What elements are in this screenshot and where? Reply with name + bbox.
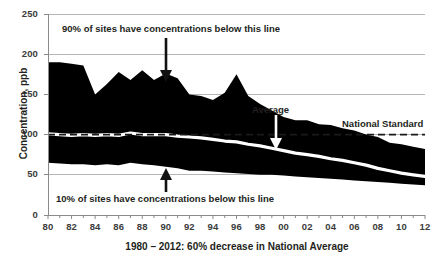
x-tick-label-86: 86	[107, 221, 131, 232]
x-tick-label-10: 10	[389, 221, 413, 232]
x-tick-label-94: 94	[201, 221, 225, 232]
x-tick-label-06: 06	[342, 221, 366, 232]
x-tick-label-82: 82	[60, 221, 84, 232]
x-tick-label-88: 88	[130, 221, 154, 232]
x-tick-label-00: 00	[272, 221, 296, 232]
x-tick-label-98: 98	[248, 221, 272, 232]
x-tick-label-12: 12	[413, 221, 435, 232]
y-axis-title: Concentration, ppb	[18, 54, 29, 174]
annotation-p10-label: 10% of sites have concentrations below t…	[56, 193, 274, 204]
concentration-trend-chart: 250 200 150 100 50 0 8082848688909294969…	[0, 0, 435, 264]
x-tick-label-04: 04	[319, 221, 343, 232]
x-tick-label-80: 80	[36, 221, 60, 232]
x-tick-label-02: 02	[295, 221, 319, 232]
x-tick-label-92: 92	[177, 221, 201, 232]
y-tick-label-250: 250	[2, 8, 38, 19]
y-tick-label-0: 0	[2, 209, 38, 220]
y-tick-marks	[44, 15, 48, 216]
x-tick-label-90: 90	[154, 221, 178, 232]
x-tick-label-96: 96	[225, 221, 249, 232]
x-axis-title: 1980 – 2012: 60% decrease in National Av…	[48, 241, 426, 252]
annotation-national-standard-label: National Standard	[342, 118, 423, 129]
annotation-p90-label: 90% of sites have concentrations below t…	[62, 23, 280, 34]
annotation-average-label: Average	[252, 104, 289, 115]
x-tick-label-08: 08	[366, 221, 390, 232]
x-tick-label-84: 84	[83, 221, 107, 232]
